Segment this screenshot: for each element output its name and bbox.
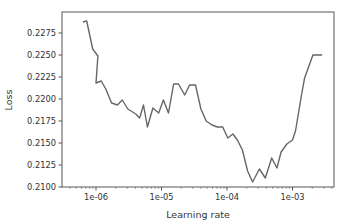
x-tick-label: 1e-06 xyxy=(84,192,108,202)
y-tick-label: 0.2225 xyxy=(27,72,56,82)
plot-frame xyxy=(62,12,334,187)
x-axis: 1e-061e-051e-041e-03 xyxy=(70,187,332,202)
x-tick-label: 1e-04 xyxy=(215,192,239,202)
x-tick-label: 1e-05 xyxy=(150,192,174,202)
y-tick-label: 0.2200 xyxy=(27,94,56,104)
y-tick-label: 0.2275 xyxy=(27,28,56,38)
x-tick-label: 1e-03 xyxy=(281,192,305,202)
y-axis-label: Loss xyxy=(3,90,14,111)
y-axis: 0.21000.21250.21500.21750.22000.22250.22… xyxy=(27,28,62,192)
y-tick-label: 0.2100 xyxy=(27,182,56,192)
y-tick-label: 0.2175 xyxy=(27,116,56,126)
lr-finder-chart: 0.21000.21250.21500.21750.22000.22250.22… xyxy=(0,0,353,224)
y-tick-label: 0.2150 xyxy=(27,138,56,148)
x-axis-label: Learning rate xyxy=(166,209,230,220)
chart-svg: 0.21000.21250.21500.21750.22000.22250.22… xyxy=(0,0,353,224)
y-tick-label: 0.2125 xyxy=(27,160,56,170)
plot-area xyxy=(62,12,334,187)
y-tick-label: 0.2250 xyxy=(27,50,56,60)
